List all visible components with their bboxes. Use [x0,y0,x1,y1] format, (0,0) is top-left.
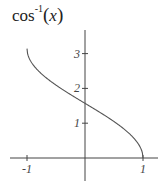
y-tick-label: 1 [74,116,80,130]
y-tick-label: 3 [73,47,80,61]
x-tick-label: -1 [22,162,32,176]
y-tick-label: 2 [74,81,80,95]
plot-area: -11123 [0,0,167,188]
x-tick-label: 1 [140,162,146,176]
